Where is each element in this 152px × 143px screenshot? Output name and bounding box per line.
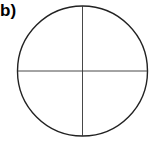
circle-diagram [0,0,152,143]
